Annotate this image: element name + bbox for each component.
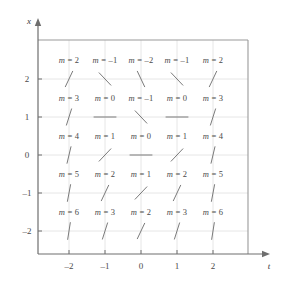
slope-value-label: m = 4	[59, 131, 79, 141]
x-tick-label: –1	[101, 261, 110, 271]
y-tick-label: –2	[23, 226, 32, 236]
slope-value-label: m = 6	[203, 207, 223, 217]
slope-value-label: m = –2	[129, 55, 154, 65]
y-axis-label: x	[27, 16, 31, 26]
slope-value-label: m = 1	[131, 169, 151, 179]
slope-value-label: m = 2	[131, 207, 151, 217]
slope-value-label: m = 4	[203, 131, 223, 141]
slope-value: = 0	[173, 93, 187, 103]
x-tick-label: 1	[175, 261, 180, 271]
y-tick-label: 1	[25, 112, 30, 122]
axis-arrow-vertical	[35, 18, 41, 26]
x-tick-label: 2	[211, 261, 216, 271]
axis-ticks	[38, 79, 213, 254]
slope-value: = 3	[209, 93, 223, 103]
slope-value-label: m = 6	[59, 207, 79, 217]
slope-value: = 3	[101, 207, 115, 217]
slope-value-label: m = 5	[203, 169, 223, 179]
plot-canvas	[0, 0, 285, 288]
slope-value: = 3	[65, 93, 79, 103]
slope-value: = 1	[101, 131, 115, 141]
slope-value-label: m = 3	[95, 207, 115, 217]
slope-value-label: m = –1	[93, 55, 118, 65]
slope-value: = –1	[99, 55, 118, 65]
slope-value: = 1	[173, 131, 187, 141]
slope-value: = 2	[101, 169, 115, 179]
slope-field-figure: m = 2m = –1m = –2m = –1m = 2m = 3m = 0m …	[0, 0, 285, 288]
slope-value-label: m = 0	[95, 93, 115, 103]
slope-value-label: m = 2	[95, 169, 115, 179]
y-tick-label: –1	[23, 188, 32, 198]
y-tick-label: 0	[25, 150, 30, 160]
slope-value-label: m = 2	[203, 55, 223, 65]
x-axis-label: t	[268, 261, 271, 271]
slope-value-label: m = 1	[95, 131, 115, 141]
slope-value: = 2	[137, 207, 151, 217]
slope-value: = 5	[65, 169, 79, 179]
slope-value: = –2	[135, 55, 154, 65]
slope-value: = 0	[137, 131, 151, 141]
slope-value-label: m = 0	[131, 131, 151, 141]
slope-value-label: m = 3	[203, 93, 223, 103]
slope-value-label: m = 3	[167, 207, 187, 217]
slope-value-label: m = –1	[165, 55, 190, 65]
slope-value: = 5	[209, 169, 223, 179]
slope-value-label: m = 5	[59, 169, 79, 179]
slope-value: = 4	[65, 131, 79, 141]
slope-value: = 1	[137, 169, 151, 179]
slope-value: = 2	[173, 169, 187, 179]
slope-value-label: m = 2	[59, 55, 79, 65]
slope-value-label: m = –1	[129, 93, 154, 103]
slope-value: = 2	[65, 55, 79, 65]
x-tick-label: –2	[65, 261, 74, 271]
slope-value: = 4	[209, 131, 223, 141]
slope-value-label: m = 2	[167, 169, 187, 179]
slope-value-label: m = 1	[167, 131, 187, 141]
y-tick-label: 2	[25, 74, 30, 84]
slope-value: = 0	[101, 93, 115, 103]
slope-value: = 6	[209, 207, 223, 217]
slope-value: = 6	[65, 207, 79, 217]
slope-value: = 3	[173, 207, 187, 217]
x-tick-label: 0	[139, 261, 144, 271]
slope-value-label: m = 3	[59, 93, 79, 103]
slope-value: = –1	[135, 93, 154, 103]
slope-value: = 2	[209, 55, 223, 65]
slope-value-label: m = 0	[167, 93, 187, 103]
axis-arrow-horizontal	[262, 251, 270, 257]
slope-value: = –1	[171, 55, 190, 65]
